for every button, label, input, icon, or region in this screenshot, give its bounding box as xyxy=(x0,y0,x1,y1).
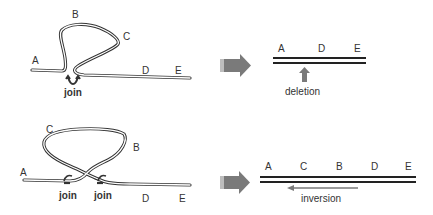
transition-arrow-icon xyxy=(220,171,250,194)
label-a: A xyxy=(32,55,39,66)
label-c: C xyxy=(46,124,53,135)
label-b: B xyxy=(72,9,79,20)
transition-arrow-icon xyxy=(220,54,251,77)
deletion-label: deletion xyxy=(285,86,320,97)
inversion-direction-arrow-icon xyxy=(287,185,358,191)
label-e: E xyxy=(179,193,186,204)
result-label-d: D xyxy=(318,43,325,54)
inversion-label: inversion xyxy=(301,193,341,204)
join-label-right: join xyxy=(93,190,112,201)
result-label-e: E xyxy=(405,161,412,172)
label-e: E xyxy=(175,65,182,76)
result-label-b: B xyxy=(336,161,343,172)
inversion-before: A C B D E join join xyxy=(20,124,190,204)
label-a: A xyxy=(20,167,27,178)
deletion-before: A B C D E join xyxy=(32,9,190,98)
join-arrow-icon xyxy=(66,76,80,84)
diagram-canvas: A B C D E join A D E deletion xyxy=(0,0,433,215)
result-label-c: C xyxy=(300,161,307,172)
result-label-a: A xyxy=(278,43,285,54)
label-c: C xyxy=(123,31,130,42)
inversion-after: A C B D E inversion xyxy=(260,161,416,204)
label-d: D xyxy=(142,193,149,204)
result-label-a: A xyxy=(265,161,272,172)
result-label-d: D xyxy=(371,161,378,172)
join-label-left: join xyxy=(58,190,77,201)
join-label: join xyxy=(63,87,82,98)
deletion-after: A D E deletion xyxy=(273,43,366,97)
label-d: D xyxy=(142,65,149,76)
label-b: B xyxy=(133,142,140,153)
deletion-marker-arrow-icon xyxy=(299,67,310,82)
result-label-e: E xyxy=(354,43,361,54)
